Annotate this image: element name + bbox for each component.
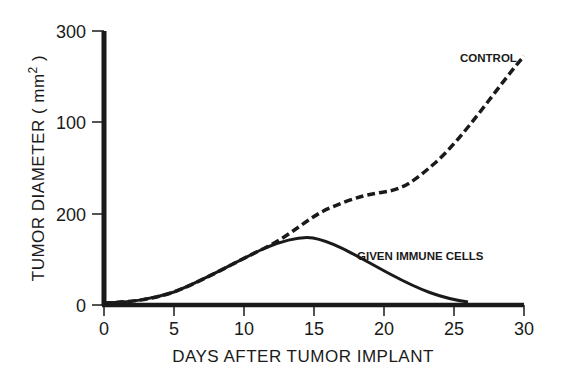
- x-axis: [102, 305, 524, 316]
- y-tick-label: 200: [56, 205, 86, 225]
- y-tick-label: 0: [76, 296, 86, 316]
- control-curve: [104, 56, 524, 303]
- x-tick-label: 5: [169, 319, 179, 339]
- immune-cells-label: GIVEN IMMUNE CELLS: [357, 250, 484, 262]
- x-tick-label: 20: [374, 319, 394, 339]
- x-axis-title: DAYS AFTER TUMOR IMPLANT: [172, 347, 434, 366]
- x-tick-label: 30: [514, 319, 534, 339]
- x-tick-label: 0: [99, 319, 109, 339]
- x-tick-label: 25: [444, 319, 464, 339]
- control-label: CONTROL: [460, 52, 517, 64]
- y-axis: [92, 31, 104, 306]
- y-axis-title: TUMOR DIAMETER ( mm2 ): [26, 55, 48, 281]
- x-tick-label: 15: [304, 319, 324, 339]
- x-tick-label: 10: [234, 319, 254, 339]
- y-tick-label: 100: [56, 113, 86, 133]
- immune-cells-curve: [104, 237, 468, 303]
- tumor-growth-chart: 300 100 200 0 0 5 10 15 20 25 30 DAYS AF…: [0, 0, 564, 378]
- y-tick-label: 300: [56, 22, 86, 42]
